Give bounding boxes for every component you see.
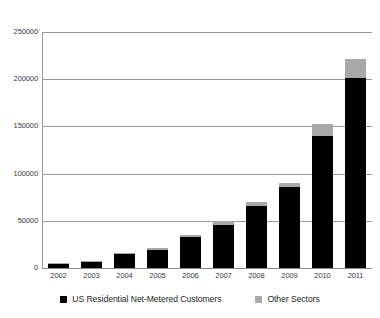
x-tick-label-2002: 2002	[42, 272, 75, 280]
x-tick-label-2006: 2006	[174, 272, 207, 280]
bar-segment-primary-2011	[345, 78, 366, 268]
x-tick-label-2005: 2005	[141, 272, 174, 280]
y-tick-label-250000: 250000	[2, 28, 38, 36]
gridline-0	[42, 268, 372, 269]
legend-swatch-icon-0	[60, 296, 67, 303]
bar-segment-primary-2007	[213, 225, 234, 268]
chart-legend: US Residential Net-Metered CustomersOthe…	[0, 294, 380, 304]
legend-swatch-icon-1	[255, 296, 262, 303]
x-tick-label-2009: 2009	[273, 272, 306, 280]
bar-group-2005	[147, 32, 168, 268]
bar-segment-secondary-2003	[81, 261, 102, 262]
bar-group-2006	[180, 32, 201, 268]
bar-group-2010	[312, 32, 333, 268]
bar-segment-primary-2009	[279, 187, 300, 268]
y-axis-tick-labels: 050000100000150000200000250000	[0, 0, 38, 318]
bar-segment-primary-2006	[180, 237, 201, 268]
x-tick-label-2011: 2011	[339, 272, 372, 280]
bar-group-2008	[246, 32, 267, 268]
x-tick-label-2008: 2008	[240, 272, 273, 280]
bar-segment-secondary-2004	[114, 253, 135, 254]
bar-segment-primary-2010	[312, 136, 333, 268]
bar-segment-secondary-2009	[279, 183, 300, 187]
bar-segment-primary-2002	[48, 264, 69, 268]
bar-group-2004	[114, 32, 135, 268]
bar-group-2007	[213, 32, 234, 268]
bar-segment-primary-2008	[246, 206, 267, 268]
bar-segment-secondary-2005	[147, 248, 168, 250]
y-tick-label-50000: 50000	[2, 217, 38, 225]
bar-segment-secondary-2008	[246, 202, 267, 206]
bar-segment-secondary-2007	[213, 221, 234, 225]
bar-segment-primary-2003	[81, 261, 102, 268]
legend-entry-1: Other Sectors	[255, 294, 319, 304]
y-tick-label-0: 0	[2, 264, 38, 272]
x-tick-label-2003: 2003	[75, 272, 108, 280]
legend-entry-0: US Residential Net-Metered Customers	[60, 294, 221, 304]
plot-area	[42, 32, 372, 268]
bar-group-2002	[48, 32, 69, 268]
bar-group-2009	[279, 32, 300, 268]
bar-segment-secondary-2006	[180, 235, 201, 237]
x-tick-label-2010: 2010	[306, 272, 339, 280]
bar-segment-secondary-2010	[312, 124, 333, 136]
bar-group-2003	[81, 32, 102, 268]
legend-label-1: Other Sectors	[267, 294, 319, 304]
bar-segment-secondary-2011	[345, 59, 366, 78]
bar-segment-primary-2004	[114, 254, 135, 268]
y-tick-label-200000: 200000	[2, 75, 38, 83]
bar-segment-primary-2005	[147, 250, 168, 268]
legend-label-0: US Residential Net-Metered Customers	[72, 294, 221, 304]
x-tick-label-2004: 2004	[108, 272, 141, 280]
y-tick-label-100000: 100000	[2, 170, 38, 178]
stacked-bar-chart: 050000100000150000200000250000 200220032…	[0, 0, 380, 318]
y-tick-label-150000: 150000	[2, 122, 38, 130]
x-tick-label-2007: 2007	[207, 272, 240, 280]
bar-group-2011	[345, 32, 366, 268]
